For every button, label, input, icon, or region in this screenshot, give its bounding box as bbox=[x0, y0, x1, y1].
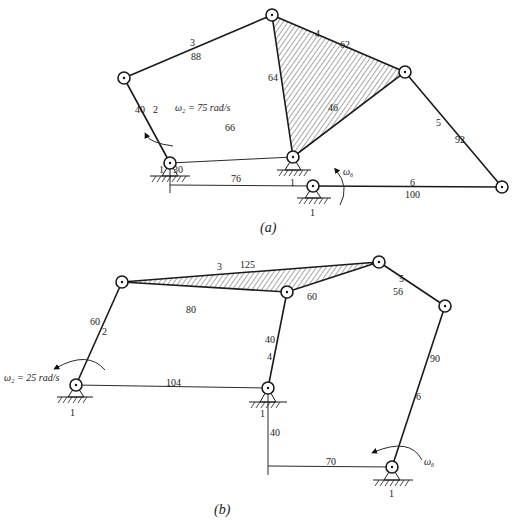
label-b-offset-v: 40 bbox=[270, 427, 280, 438]
label-b-link4-id: 4 bbox=[267, 351, 272, 362]
label-a-link6-len: 100 bbox=[405, 189, 420, 200]
link-5 bbox=[405, 72, 502, 187]
label-a-omega-input: ω₂ = 75 rad/s bbox=[175, 102, 230, 113]
label-b-link6-id: 6 bbox=[416, 391, 421, 402]
label-b-ground-dist: 104 bbox=[166, 377, 181, 388]
label-a-link6-id: 6 bbox=[410, 177, 415, 188]
caption-b: (b) bbox=[214, 502, 231, 518]
label-a-link5-len: 92 bbox=[455, 134, 465, 145]
label-a-ground1b: 1 bbox=[290, 177, 295, 188]
label-b-link3-top: 125 bbox=[240, 259, 255, 270]
label-a-link4-id: 4 bbox=[315, 28, 320, 39]
label-a-link3-id: 3 bbox=[190, 37, 195, 48]
label-b-link5-id: 5 bbox=[399, 273, 404, 284]
link-4-triangle bbox=[272, 15, 405, 157]
label-b-ground1b: 1 bbox=[260, 408, 265, 419]
label-b-link2-id: 2 bbox=[102, 326, 107, 337]
label-a-link3-len: 88 bbox=[191, 51, 201, 62]
label-b-link3-left: 80 bbox=[186, 304, 196, 315]
link-5 bbox=[379, 262, 445, 306]
link-6 bbox=[313, 186, 502, 187]
link-6 bbox=[392, 306, 445, 467]
label-b-ground1a: 1 bbox=[70, 407, 75, 418]
link-3 bbox=[124, 15, 272, 78]
figure-a: 40 2 3 88 4 62 64 46 5 92 6 100 66 30 76… bbox=[118, 9, 508, 236]
label-a-link2-len: 40 bbox=[135, 104, 145, 115]
label-b-link4-len: 40 bbox=[265, 334, 275, 345]
label-b-omega-output: ω₆ bbox=[424, 456, 435, 467]
label-b-link2-len: 60 bbox=[90, 316, 100, 327]
label-b-ground1c: 1 bbox=[389, 488, 394, 499]
link-2 bbox=[76, 282, 122, 385]
label-b-link3-id: 3 bbox=[217, 261, 222, 272]
label-a-link2-id: 2 bbox=[153, 104, 158, 115]
omega2-arrow-b bbox=[56, 359, 105, 370]
label-b-link5-len: 56 bbox=[393, 286, 403, 297]
label-a-link4-left: 64 bbox=[268, 72, 278, 83]
label-a-offset-v: 30 bbox=[173, 164, 183, 175]
ground-line-66 bbox=[170, 157, 293, 163]
label-b-link6-len: 90 bbox=[430, 353, 440, 364]
label-a-ground1a: 1 bbox=[159, 164, 164, 175]
label-a-link4-top: 62 bbox=[340, 39, 350, 50]
label-a-link5-id: 5 bbox=[436, 117, 441, 128]
link-2 bbox=[124, 78, 170, 163]
linkage-diagrams: 40 2 3 88 4 62 64 46 5 92 6 100 66 30 76… bbox=[0, 0, 514, 529]
label-a-omega-output: ω₆ bbox=[343, 166, 354, 177]
label-a-link4-bottom: 46 bbox=[328, 102, 338, 113]
label-a-ground-dist: 66 bbox=[225, 122, 235, 133]
label-b-link3-right: 60 bbox=[307, 291, 317, 302]
label-b-omega-input: ω₂ = 25 rad/s bbox=[4, 372, 59, 383]
caption-a: (a) bbox=[260, 220, 277, 236]
label-b-offset-h: 70 bbox=[326, 456, 336, 467]
label-a-ground1c: 1 bbox=[310, 207, 315, 218]
figure-b: 60 2 3 125 80 60 40 4 5 56 90 6 104 40 7… bbox=[4, 256, 451, 518]
label-a-offset-h: 76 bbox=[231, 173, 241, 184]
